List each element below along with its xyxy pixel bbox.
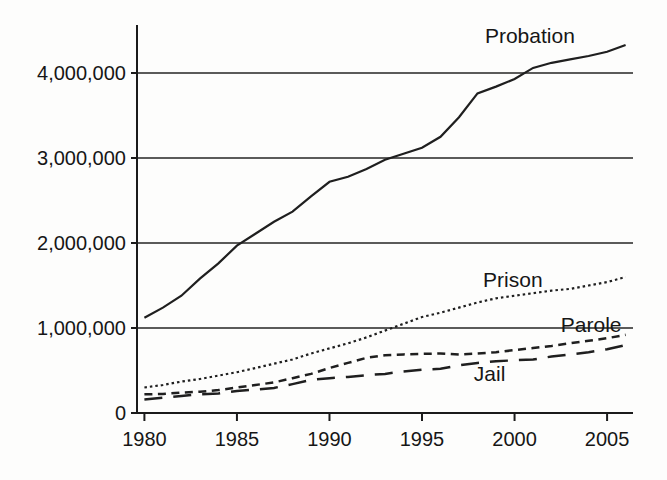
- y-tick-label: 0: [0, 401, 126, 425]
- x-tick-label: 1995: [387, 427, 457, 451]
- x-tick-label: 2000: [480, 427, 550, 451]
- correctional-populations-line-chart: Probation Prison Parole Jail 01,000,0002…: [0, 0, 667, 480]
- x-tick-label: 2005: [572, 427, 642, 451]
- x-tick-label: 1980: [109, 427, 179, 451]
- series-label-probation: Probation: [485, 24, 575, 48]
- series-label-jail: Jail: [474, 362, 506, 386]
- x-tick-label: 1990: [294, 427, 364, 451]
- x-tick-label: 1985: [202, 427, 272, 451]
- series-line-probation: [144, 45, 625, 318]
- series-label-prison: Prison: [483, 268, 543, 292]
- y-tick-label: 1,000,000: [0, 316, 126, 340]
- series-label-parole: Parole: [561, 313, 622, 337]
- y-tick-label: 2,000,000: [0, 231, 126, 255]
- series-line-parole: [144, 335, 625, 395]
- y-tick-label: 4,000,000: [0, 61, 126, 85]
- y-tick-label: 3,000,000: [0, 146, 126, 170]
- series-line-prison: [144, 277, 625, 388]
